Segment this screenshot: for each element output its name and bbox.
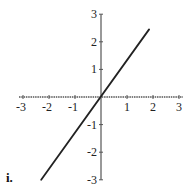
x-tick-label: 2 [150,100,156,114]
x-tick-label: 1 [124,100,130,114]
x-tick-label: -1 [68,100,78,114]
y-tick-label: 2 [91,35,97,49]
y-tick-label: -2 [87,145,97,159]
y-tick-label: 1 [91,62,97,76]
panel-label: i. [6,170,13,185]
chart-plot: -3-2-1123321-1-2-3 i. [0,0,188,186]
x-tick-label: -3 [16,100,26,114]
y-tick-label: -1 [87,118,97,132]
x-tick-label: -2 [42,100,52,114]
y-tick-label: 3 [91,7,97,21]
x-tick-label: 3 [176,100,182,114]
y-tick-label: -3 [87,173,97,186]
